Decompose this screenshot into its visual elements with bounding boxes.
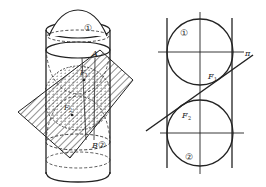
label-sphere-2-right: ② [185,152,193,162]
label-sphere-1-right: ① [180,28,188,38]
label-sphere-2: ② [98,140,106,150]
dandelin-spheres-diagram: ① A F 1 F 2 B ② ① π F 1 F 2 ② [0,0,266,187]
right-view-projection: ① π F 1 F 2 ② [146,12,253,174]
label-f2-sub-right: 2 [188,115,191,121]
cutting-plane-trace [146,55,253,131]
label-point-b: B [91,141,98,150]
focus-f1-point [83,79,86,82]
label-point-a: A [91,49,98,58]
label-f2-right: F [181,111,188,120]
cylinder-bottom-rim [46,172,110,182]
focus-f2-point [71,114,74,117]
label-plane-pi: π [244,49,251,58]
label-f1-sub: 1 [85,72,88,78]
label-sphere-1: ① [84,23,92,33]
left-view-cylinder: ① A F 1 F 2 B ② [18,10,133,182]
label-f2-sub: 2 [69,107,72,113]
label-f1-right: F [207,72,214,81]
section-ellipse [44,66,112,130]
label-f1-sub-right: 1 [214,76,217,82]
